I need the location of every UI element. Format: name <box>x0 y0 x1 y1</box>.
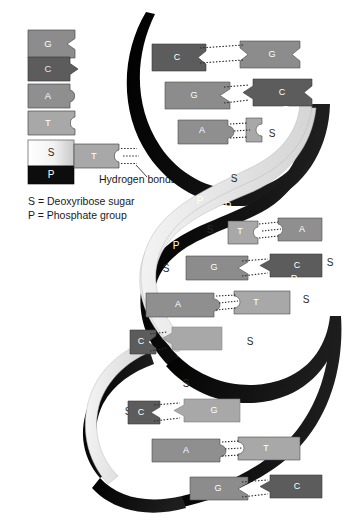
backbone-P-3: P <box>197 195 204 206</box>
legend-key-phosphate: P = Phosphate group <box>28 209 127 221</box>
backbone-S-mid-1: S <box>207 224 214 235</box>
backbone-S-mid-5: S <box>183 378 190 389</box>
sugar-label: S <box>48 147 55 158</box>
base-T-right-6 <box>234 291 290 314</box>
phosphate-label: P <box>48 169 55 180</box>
base-pair-3: A <box>178 118 262 144</box>
backbone-S-mid-2: S <box>163 263 170 274</box>
base-label-G-1: G <box>268 49 275 59</box>
base-G-right-8 <box>174 399 240 422</box>
base-shape-adenine <box>28 84 75 108</box>
backbone-P-mid-1b: P <box>322 239 329 250</box>
base-C-right-2 <box>243 79 312 106</box>
backbone-P-mid-3: P <box>275 317 282 328</box>
base-shape-thymine <box>28 111 75 135</box>
backbone-P-mid-4: P <box>221 358 228 369</box>
backbone-P-mid-2: P <box>291 274 298 285</box>
base-label-G-8: G <box>210 405 217 415</box>
base-label-T-4: T <box>237 226 243 236</box>
backbone-P-mid-1: P <box>173 240 180 251</box>
base-label-A-9: A <box>183 445 189 455</box>
base-label-C-7: C <box>138 336 145 346</box>
base-T-right-9 <box>238 437 300 460</box>
legend-base-G-label: G <box>44 38 51 49</box>
backbone-S-mid-4: S <box>247 336 254 347</box>
base-label-C-8: C <box>138 407 145 417</box>
backbone-P-mid-0: P <box>225 201 232 212</box>
base-label-G-5: G <box>210 262 217 272</box>
base-label-G-10: G <box>214 483 221 493</box>
sample-base-label: T <box>91 150 97 161</box>
backbone-P-low-0: P <box>147 389 154 400</box>
base-pair-8: C G <box>128 399 240 424</box>
base-label-C-2: C <box>279 87 286 97</box>
legend-base-T: T <box>28 111 75 135</box>
backbone-S-2: S <box>231 173 238 184</box>
dna-diagram-canvas: G C A T S P T <box>0 0 344 524</box>
base-label-C-1: C <box>174 52 181 62</box>
base-label-T-9: T <box>263 443 269 453</box>
base-A-left-6 <box>146 293 220 317</box>
base-label-A-6: A <box>175 299 181 309</box>
legend-base-A: A <box>28 84 75 108</box>
hydrogen-bonds-label: Hydrogen bonds <box>99 173 176 185</box>
base-T-left-4 <box>228 221 258 244</box>
legend-key-sugar: S = Deoxyribose sugar <box>28 195 135 207</box>
base-label-G-2: G <box>190 90 197 100</box>
base-label-A-4: A <box>299 224 305 234</box>
backbone-P-1: P <box>283 105 290 116</box>
backbone-S-mid-3: S <box>303 294 310 305</box>
legend-base-T-label: T <box>45 117 51 128</box>
base-label-A-3: A <box>199 125 205 135</box>
base-label-T-6: T <box>253 297 259 307</box>
base-A-left-3 <box>178 120 234 144</box>
base-label-C-10: C <box>294 481 301 491</box>
legend-base-C-label: C <box>45 63 52 74</box>
backbone-S-mid-2b: S <box>327 257 334 268</box>
base-label-C-5: C <box>294 260 301 270</box>
backbone-P-2: P <box>260 150 267 161</box>
dna-diagram-svg: G C A T S P T <box>0 0 344 524</box>
backbone-S-1: S <box>269 128 276 139</box>
legend-base-A-label: A <box>45 90 52 101</box>
